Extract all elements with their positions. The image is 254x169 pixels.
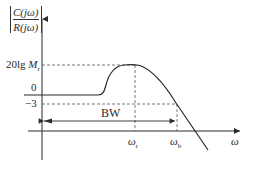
y-tick-minus3: −3 — [25, 98, 37, 109]
y-axis-label: C(jω) R(jω) — [10, 6, 42, 33]
x-tick-omega-b-var: ω — [170, 135, 178, 147]
y-tick-mr: 20lg Mr — [6, 59, 40, 73]
x-tick-omega-r: ωr — [128, 136, 138, 150]
x-tick-omega-r-var: ω — [128, 135, 136, 147]
x-tick-omega-b: ωb — [170, 136, 181, 150]
y-tick-zero: 0 — [31, 82, 37, 93]
x-axis-label: ω — [231, 136, 239, 147]
y-axis-label-numerator: C(jω) — [13, 6, 39, 20]
bandwidth-label: BW — [101, 107, 120, 119]
y-tick-mr-sub: r — [37, 65, 39, 73]
y-tick-mr-prefix: 20lg — [6, 58, 28, 70]
x-tick-omega-r-sub: r — [136, 142, 138, 150]
x-tick-omega-b-sub: b — [178, 142, 182, 150]
y-axis-label-denominator: R(jω) — [13, 20, 39, 33]
bandwidth-arrow-left-head — [44, 119, 52, 124]
